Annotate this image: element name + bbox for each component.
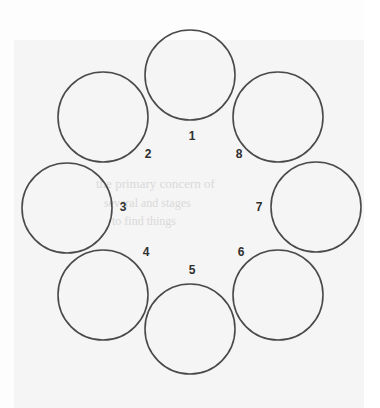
circle-label-4: 4 xyxy=(139,246,153,258)
circle-ring-diagram xyxy=(0,0,380,408)
circles-group xyxy=(22,30,361,374)
circle-node-5 xyxy=(145,284,235,374)
circle-node-7 xyxy=(271,162,361,252)
circle-label-5: 5 xyxy=(185,264,199,276)
circle-node-8 xyxy=(233,72,323,162)
circle-node-1 xyxy=(145,30,235,120)
circle-node-4 xyxy=(58,250,148,340)
circle-label-3: 3 xyxy=(116,201,130,213)
circle-label-2: 2 xyxy=(141,148,155,160)
circle-node-3 xyxy=(22,163,112,253)
scanned-page: the primary concern ofseveral and stages… xyxy=(0,0,380,408)
circle-label-1: 1 xyxy=(185,130,199,142)
circle-label-7: 7 xyxy=(252,201,266,213)
circle-node-6 xyxy=(233,250,323,340)
circle-label-8: 8 xyxy=(232,148,246,160)
circle-label-6: 6 xyxy=(234,246,248,258)
circle-node-2 xyxy=(58,72,148,162)
